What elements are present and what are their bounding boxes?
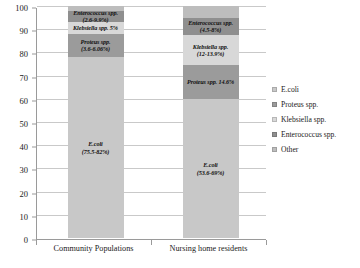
y-tick-label: 40 xyxy=(20,142,29,152)
y-tick-label: 20 xyxy=(20,189,29,199)
stacked-bar[interactable]: E.coli(75.5-82%)Proteus spp.(3.6-6.06%)K… xyxy=(68,8,124,238)
segment-data-label: Proteus spp.(3.6-6.06%) xyxy=(80,38,110,53)
legend-item[interactable]: Other xyxy=(272,142,358,157)
segment-data-label: Enterococcus spp.(4.5-8%) xyxy=(188,19,233,34)
stacked-bar[interactable]: E.coli(53.6-69%)Proteus spp. 14.6%Klebsi… xyxy=(183,8,239,238)
bar-segment[interactable]: E.coli(53.6-69%) xyxy=(183,99,239,238)
bar-segment[interactable]: Klebsiella spp.(12-13.9%) xyxy=(183,35,239,65)
bar-segment[interactable]: Proteus spp.(3.6-6.06%) xyxy=(68,34,124,57)
bar-segment[interactable] xyxy=(183,6,239,18)
legend-swatch-icon xyxy=(272,117,277,122)
y-tick-label: 30 xyxy=(20,165,29,175)
y-tick-label: 90 xyxy=(20,26,29,36)
x-tick-mark xyxy=(266,240,267,245)
bar-group: E.coli(75.5-82%)Proteus spp.(3.6-6.06%)K… xyxy=(68,8,124,238)
bar-segment[interactable]: Enterococcus spp.(2.6-9.9%) xyxy=(68,11,124,23)
segment-data-label: Enterococcus spp.(2.6-9.9%) xyxy=(73,9,118,24)
legend-label: Klebsiella spp. xyxy=(281,115,326,124)
gridline xyxy=(37,238,266,239)
y-tick-label: 60 xyxy=(20,96,29,106)
x-tick-mark xyxy=(151,240,152,245)
y-tick-label: 70 xyxy=(20,73,29,83)
legend-swatch-icon xyxy=(272,132,277,137)
plot-area: E.coli(75.5-82%)Proteus spp.(3.6-6.06%)K… xyxy=(36,8,266,240)
y-tick-label: 10 xyxy=(20,212,29,222)
y-tick-label: 0 xyxy=(24,235,28,245)
legend-item[interactable]: Proteus spp. xyxy=(272,97,358,112)
segment-data-label: Klebsiella spp.(12-13.9%) xyxy=(193,43,228,58)
legend-label: Other xyxy=(281,145,298,154)
bar-segment[interactable] xyxy=(68,6,124,11)
legend-item[interactable]: Enterococcus spp. xyxy=(272,127,358,142)
bar-segment[interactable]: Enterococcus spp.(4.5-8%) xyxy=(183,18,239,35)
y-tick-label: 50 xyxy=(20,119,29,129)
x-tick-label: Nursing home residents xyxy=(170,244,248,253)
bar-group: E.coli(53.6-69%)Proteus spp. 14.6%Klebsi… xyxy=(183,8,239,238)
y-tick-label: 80 xyxy=(20,49,29,59)
stacked-bar-chart: 0102030405060708090100 E.coli(75.5-82%)P… xyxy=(0,0,360,268)
legend: E.coliProteus spp.Klebsiella spp.Enteroc… xyxy=(272,82,358,157)
legend-swatch-icon xyxy=(272,147,277,152)
segment-data-label: Proteus spp. 14.6% xyxy=(187,78,234,86)
x-axis: Community PopulationsNursing home reside… xyxy=(36,244,266,260)
bar-container: E.coli(75.5-82%)Proteus spp.(3.6-6.06%)K… xyxy=(38,8,266,238)
bar-segment[interactable]: Proteus spp. 14.6% xyxy=(183,65,239,99)
x-tick-mark xyxy=(36,240,37,245)
legend-swatch-icon xyxy=(272,102,277,107)
segment-data-label: Klebsiella spp. 5% xyxy=(73,24,118,32)
legend-label: E.coli xyxy=(281,85,299,94)
legend-label: Proteus spp. xyxy=(281,100,318,109)
legend-swatch-icon xyxy=(272,87,277,92)
legend-item[interactable]: Klebsiella spp. xyxy=(272,112,358,127)
y-axis: 0102030405060708090100 xyxy=(0,8,32,240)
x-tick-label: Community Populations xyxy=(54,244,134,253)
segment-data-label: E.coli(53.6-69%) xyxy=(197,161,224,176)
segment-data-label: E.coli(75.5-82%) xyxy=(82,140,109,155)
y-tick-label: 100 xyxy=(15,3,28,13)
legend-item[interactable]: E.coli xyxy=(272,82,358,97)
bar-segment[interactable]: E.coli(75.5-82%) xyxy=(68,57,124,238)
legend-label: Enterococcus spp. xyxy=(281,130,336,139)
